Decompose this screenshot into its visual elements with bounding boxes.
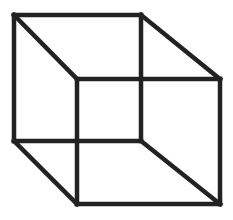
cube-edge-back-top-left-to-front-top-left xyxy=(14,15,77,79)
cube-edge-back-bottom-left-to-front-bottom-left xyxy=(14,141,77,204)
cube-wireframe xyxy=(0,0,233,220)
necker-cube-figure xyxy=(0,0,233,220)
cube-edge-back-top-right-to-front-top-right xyxy=(141,15,220,79)
cube-edge-back-bottom-right-to-front-bottom-right xyxy=(141,141,220,204)
